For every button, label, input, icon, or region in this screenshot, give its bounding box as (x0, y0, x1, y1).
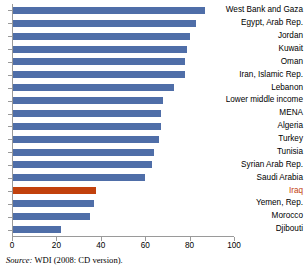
bar-track (12, 120, 234, 133)
bar-west-bank-and-gaza (12, 7, 205, 14)
bar-jordan (12, 33, 190, 40)
y-axis-tick (8, 49, 12, 50)
category-label-egypt-arab-rep: Egypt, Arab Rep. (236, 17, 303, 30)
y-axis-tick (8, 204, 12, 205)
bar-track (12, 107, 234, 120)
x-axis-tick-label: 80 (185, 242, 194, 250)
bar-row: Yemen, Rep. (0, 197, 305, 210)
category-label-oman: Oman (236, 56, 303, 69)
y-axis-tick (8, 126, 12, 127)
bar-row: Lebanon (0, 81, 305, 94)
y-axis-tick (8, 230, 12, 231)
x-axis-tick-label: 20 (52, 242, 61, 250)
bar-row: MENA (0, 107, 305, 120)
x-axis-tick-label: 40 (96, 242, 105, 250)
bar-morocco (12, 213, 90, 220)
bar-row: Djibouti (0, 223, 305, 236)
bar-row: Turkey (0, 133, 305, 146)
y-axis-tick (8, 101, 12, 102)
bar-row: Algeria (0, 120, 305, 133)
bar-row: Saudi Arabia (0, 171, 305, 184)
bar-track (12, 197, 234, 210)
y-axis-tick (8, 10, 12, 11)
category-label-jordan: Jordan (236, 30, 303, 43)
y-axis-tick (8, 178, 12, 179)
y-axis-tick (8, 62, 12, 63)
bar-syrian-arab-rep (12, 161, 152, 168)
category-label-west-bank-and-gaza: West Bank and Gaza (236, 4, 303, 17)
source-label: Source: (6, 255, 32, 265)
bar-egypt-arab-rep (12, 20, 196, 27)
bar-oman (12, 58, 185, 65)
bar-track (12, 68, 234, 81)
source-text: WDI (2008: CD version). (32, 255, 122, 265)
category-label-lower-middle-income: Lower middle income (236, 94, 303, 107)
bar-row: Lower middle income (0, 94, 305, 107)
bar-row: Tunisia (0, 146, 305, 159)
y-axis-tick (8, 191, 12, 192)
x-axis-tick-label: 100 (227, 242, 241, 250)
bar-row: Morocco (0, 210, 305, 223)
x-axis-tick-label: 0 (10, 242, 15, 250)
category-label-lebanon: Lebanon (236, 81, 303, 94)
y-axis-tick (8, 139, 12, 140)
category-label-morocco: Morocco (236, 210, 303, 223)
bar-mena (12, 110, 161, 117)
chart-plot-area: West Bank and GazaEgypt, Arab Rep.Jordan… (0, 4, 305, 236)
x-axis-tick-label: 60 (141, 242, 150, 250)
y-axis-tick (8, 23, 12, 24)
x-axis-spine (12, 236, 234, 237)
bar-row: West Bank and Gaza (0, 4, 305, 17)
bar-row: Jordan (0, 30, 305, 43)
bar-track (12, 4, 234, 17)
y-axis-tick (8, 217, 12, 218)
bar-track (12, 43, 234, 56)
y-axis-spine (12, 4, 13, 236)
y-axis-tick (8, 165, 12, 166)
bar-yemen-rep (12, 200, 94, 207)
category-label-kuwait: Kuwait (236, 43, 303, 56)
y-axis-tick (8, 88, 12, 89)
bar-track (12, 146, 234, 159)
bar-track (12, 184, 234, 197)
bar-iraq (12, 187, 96, 194)
bar-track (12, 171, 234, 184)
bar-track (12, 30, 234, 43)
y-axis-tick (8, 36, 12, 37)
bar-row: Iraq (0, 184, 305, 197)
category-label-iran-islamic-rep: Iran, Islamic Rep. (236, 68, 303, 81)
bar-iran-islamic-rep (12, 71, 185, 78)
y-axis-tick (8, 114, 12, 115)
bar-track (12, 210, 234, 223)
category-label-saudi-arabia: Saudi Arabia (236, 171, 303, 184)
bar-lower-middle-income (12, 97, 163, 104)
y-axis-tick (8, 75, 12, 76)
category-label-algeria: Algeria (236, 120, 303, 133)
bar-chart-figure: West Bank and GazaEgypt, Arab Rep.Jordan… (0, 0, 305, 270)
bar-track (12, 159, 234, 172)
category-label-djibouti: Djibouti (236, 223, 303, 236)
bar-tunisia (12, 149, 154, 156)
bar-track (12, 17, 234, 30)
bar-row: Egypt, Arab Rep. (0, 17, 305, 30)
category-label-tunisia: Tunisia (236, 146, 303, 159)
category-label-mena: MENA (236, 107, 303, 120)
bar-lebanon (12, 84, 174, 91)
bar-row: Kuwait (0, 43, 305, 56)
bar-track (12, 81, 234, 94)
category-label-yemen-rep: Yemen, Rep. (236, 197, 303, 210)
bar-row: Syrian Arab Rep. (0, 159, 305, 172)
category-label-syrian-arab-rep: Syrian Arab Rep. (236, 159, 303, 172)
bar-row: Oman (0, 56, 305, 69)
bar-algeria (12, 123, 161, 130)
bar-djibouti (12, 226, 61, 233)
bar-track (12, 94, 234, 107)
bar-turkey (12, 136, 159, 143)
bar-track (12, 133, 234, 146)
category-label-turkey: Turkey (236, 133, 303, 146)
bar-row: Iran, Islamic Rep. (0, 68, 305, 81)
source-note: Source: WDI (2008: CD version). (6, 255, 123, 265)
bar-track (12, 56, 234, 69)
category-label-iraq: Iraq (236, 184, 303, 197)
bar-track (12, 223, 234, 236)
